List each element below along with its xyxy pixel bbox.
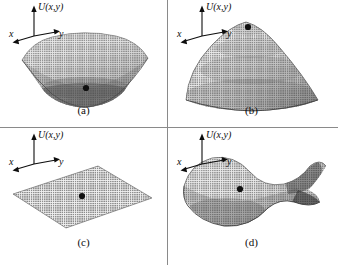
axis-label-x: x	[177, 29, 181, 39]
axis-label-y: y	[59, 29, 63, 39]
axis-label-u: U(x,y)	[206, 130, 231, 140]
panel-caption-d: (d)	[168, 236, 335, 248]
panel-caption-b: (b)	[168, 104, 335, 116]
equilibrium-marker-a	[83, 85, 89, 91]
panel-a-bowl: U(x,y) y x (a)	[0, 0, 167, 127]
panel-b-dome: U(x,y) y x (b)	[168, 0, 335, 127]
equilibrium-marker-d	[237, 186, 243, 192]
axis-triad-b: U(x,y) y x	[176, 2, 248, 46]
panel-caption-c: (c)	[0, 236, 167, 248]
panel-caption-a: (a)	[0, 104, 167, 116]
axis-label-y: y	[227, 157, 231, 167]
axis-label-u: U(x,y)	[38, 130, 63, 140]
potential-energy-figure: U(x,y) y x (a)	[0, 0, 338, 265]
equilibrium-marker-c	[79, 193, 85, 199]
axis-label-x: x	[9, 29, 13, 39]
panel-d-saddle: U(x,y) y x (d)	[168, 128, 335, 265]
axis-label-u: U(x,y)	[206, 2, 231, 12]
axis-label-u: U(x,y)	[38, 2, 63, 12]
axis-label-x: x	[177, 157, 181, 167]
panel-c-plane: U(x,y) y x (c)	[0, 128, 167, 265]
axis-label-x: x	[9, 157, 13, 167]
axis-triad-c: U(x,y) y x	[8, 130, 80, 174]
axis-label-y: y	[227, 29, 231, 39]
axis-label-y: y	[59, 157, 63, 167]
axis-triad-d: U(x,y) y x	[176, 130, 248, 174]
axis-triad-a: U(x,y) y x	[8, 2, 80, 46]
